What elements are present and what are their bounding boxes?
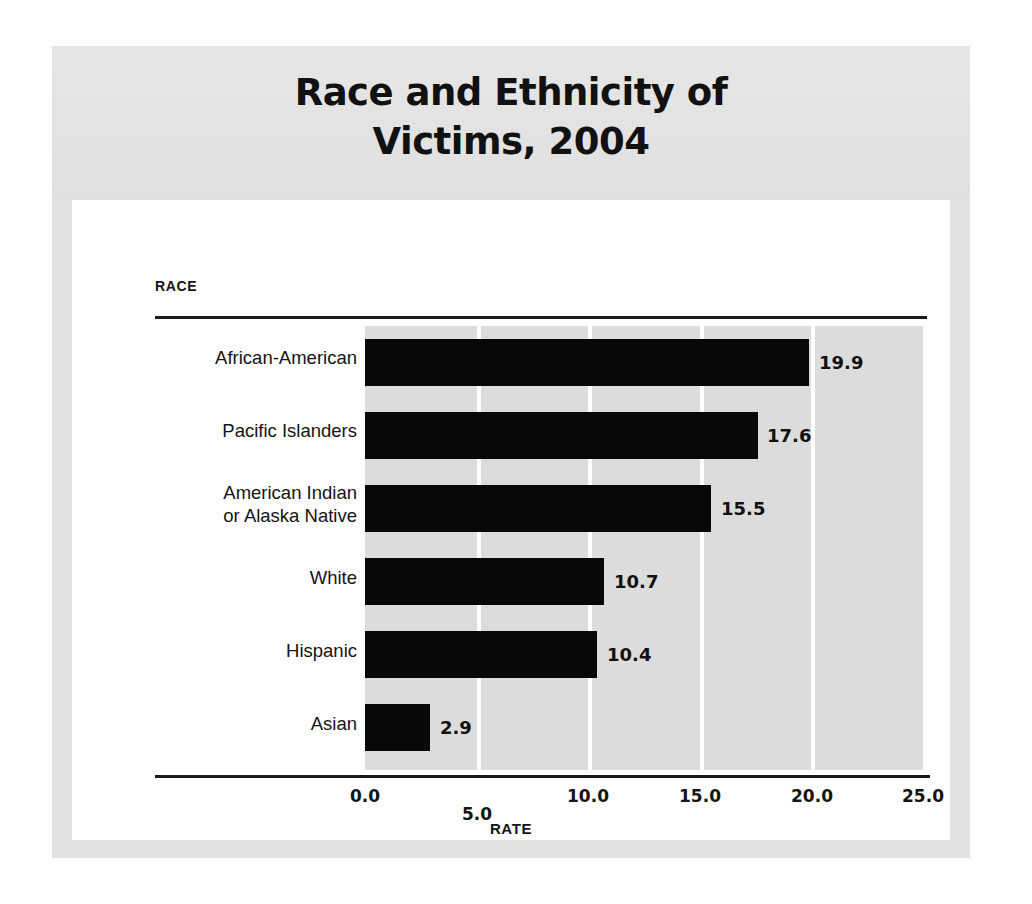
- category-label-column: African-American Pacific Islanders Ameri…: [155, 326, 357, 770]
- bar-american-indian-or-alaska-native[interactable]: [365, 485, 711, 532]
- plot-area: [365, 326, 923, 770]
- bar-value-label: 10.7: [614, 571, 658, 592]
- category-label: African-American: [155, 346, 357, 369]
- category-label: Pacific Islanders: [155, 419, 357, 442]
- x-tick-label-10: 10.0: [567, 786, 609, 806]
- x-tick-label-20: 20.0: [791, 786, 833, 806]
- bar-hispanic[interactable]: [365, 631, 597, 678]
- bar-white[interactable]: [365, 558, 604, 605]
- x-axis-title: RATE: [72, 820, 950, 837]
- bar-value-label: 17.6: [767, 425, 811, 446]
- category-label: Hispanic: [155, 639, 357, 662]
- category-label: White: [155, 566, 357, 589]
- gridline-15: [700, 326, 704, 770]
- category-label: American Indian or Alaska Native: [155, 481, 357, 527]
- gridline-20: [811, 326, 815, 770]
- y-axis-group-label: RACE: [155, 278, 197, 294]
- bar-value-label: 19.9: [819, 352, 863, 373]
- bar-pacific-islanders[interactable]: [365, 412, 758, 459]
- title-band: Race and Ethnicity of Victims, 2004: [52, 46, 970, 198]
- slide-card: Race and Ethnicity of Victims, 2004 RACE…: [52, 46, 970, 858]
- bar-asian[interactable]: [365, 704, 430, 751]
- bar-african-american[interactable]: [365, 339, 809, 386]
- slide-image: Race and Ethnicity of Victims, 2004 RACE…: [0, 0, 1032, 904]
- bar-value-label: 2.9: [440, 717, 472, 738]
- chart-title: Race and Ethnicity of Victims, 2004: [52, 68, 970, 166]
- x-tick-label-15: 15.0: [679, 786, 721, 806]
- bar-value-label: 15.5: [721, 498, 765, 519]
- bar-value-label: 10.4: [607, 644, 651, 665]
- category-label: Asian: [155, 712, 357, 735]
- chart-panel: RACE African-American Pacific Islanders …: [72, 200, 950, 840]
- y-axis-group-rule: [155, 316, 927, 319]
- x-tick-label-25: 25.0: [902, 786, 944, 806]
- plot-wrap: African-American Pacific Islanders Ameri…: [155, 326, 927, 770]
- gridline-5: [477, 326, 481, 770]
- x-tick-label-0: 0.0: [350, 786, 380, 806]
- gridline-10: [588, 326, 592, 770]
- x-axis-line: [155, 775, 930, 778]
